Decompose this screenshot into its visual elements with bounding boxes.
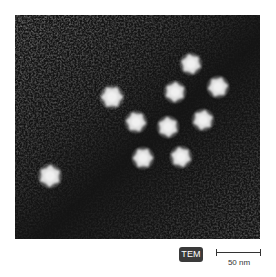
nanoparticle — [155, 114, 181, 140]
nanoparticle — [190, 107, 216, 133]
scale-bar-cap-right — [260, 249, 261, 256]
nanoparticle — [123, 109, 149, 135]
nanoparticle — [162, 79, 188, 105]
nanoparticle — [178, 51, 204, 77]
nanoparticle — [36, 162, 64, 190]
scale-bar-label: 50 nm — [224, 258, 254, 267]
scale-bar-cap-left — [216, 249, 217, 256]
nanoparticle — [168, 144, 194, 170]
nanoparticle — [130, 145, 156, 171]
tem-badge: TEM — [179, 247, 203, 262]
nanoparticle — [98, 83, 126, 111]
scale-bar — [216, 249, 261, 257]
tem-micrograph — [15, 15, 260, 239]
nanoparticle — [205, 74, 231, 100]
scale-bar-line — [216, 252, 261, 253]
